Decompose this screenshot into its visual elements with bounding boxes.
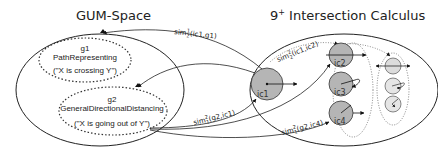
g2-id: g2 xyxy=(108,95,117,104)
edge-label-ic1-g1: sim12(ic1,g1) xyxy=(174,26,218,41)
edge-ic1-g2 xyxy=(138,64,255,87)
ic2-label: ic2 xyxy=(334,59,346,68)
secondary-circle-3 xyxy=(385,96,401,112)
g2-name: GeneralDirectionalDistancing xyxy=(60,104,164,113)
ic1-label: ic1 xyxy=(257,90,269,99)
g1-example: ("X is crossing Y") xyxy=(53,66,117,75)
g1-entry-arrowhead xyxy=(100,29,106,33)
ic4-label: ic4 xyxy=(334,117,346,126)
edge-label-g2-ic4: sim21(g2,ic4) xyxy=(280,117,324,138)
diagram-svg: GUM-Space 9+ Intersection Calculus g1 Pa… xyxy=(0,0,438,147)
diagram-canvas: GUM-Space 9+ Intersection Calculus g1 Pa… xyxy=(0,0,438,147)
edge-label-ic1-ic2: sim22(ic1,ic2) xyxy=(275,38,320,65)
edge-label-g2-ic1: sim21(g2,ic1) xyxy=(192,107,236,128)
g2-example: ("X is going out of Y") xyxy=(74,119,150,128)
edge-g2-ic2 xyxy=(150,64,330,129)
g1-name: PathRepresenting xyxy=(53,53,117,62)
ic3-label: ic3 xyxy=(334,88,346,97)
intersection-calculus-title: 9+ Intersection Calculus xyxy=(270,8,425,23)
gum-space-title: GUM-Space xyxy=(76,8,151,23)
g1-id: g1 xyxy=(81,44,90,53)
